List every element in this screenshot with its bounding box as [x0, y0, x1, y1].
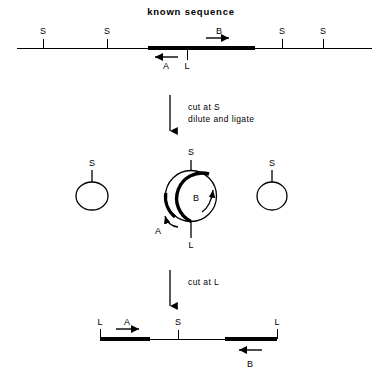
step-two-text: cut at L [188, 276, 219, 288]
primer-label-a-top: A [163, 62, 169, 71]
product-left-end-label-l: L [97, 318, 102, 327]
step-one-text: cut at S dilute and ligate [188, 101, 254, 125]
main-circle-primer-arrow-b [202, 190, 213, 212]
product-left-end-tick-l [100, 329, 101, 339]
known-sequence-bar [148, 46, 255, 50]
step-one-line-2: dilute and ligate [188, 113, 254, 125]
cut-site-label-s1: S [40, 27, 46, 36]
cut-site-tick-s4 [323, 39, 324, 49]
main-circle-primer-label-a: A [155, 227, 161, 236]
cut-site-tick-s3 [282, 39, 283, 49]
product-left-known-bar [100, 337, 150, 341]
product-middle-site-label-s: S [175, 318, 181, 327]
step-one-line-1: cut at S [188, 101, 254, 113]
left-circle-label-s: S [89, 159, 95, 168]
main-circle-primer-label-b: B [193, 194, 199, 203]
product-middle-site-tick-s [178, 330, 179, 339]
right-circle-outline [257, 182, 287, 210]
product-right-end-label-l: L [274, 318, 279, 327]
linker-label-l: L [184, 62, 189, 71]
main-circle-primer-arrow-a [165, 216, 178, 227]
figure-root: known sequence S S S S L B A cut at S di… [0, 0, 382, 379]
main-circle-label-s: S [188, 148, 194, 157]
cut-site-tick-s1 [43, 39, 44, 49]
vector-overlay [0, 0, 382, 379]
cut-site-label-s3: S [279, 27, 285, 36]
main-circle-outline [166, 171, 217, 222]
product-primer-label-a: A [124, 318, 130, 327]
figure-title: known sequence [147, 6, 235, 17]
cut-site-label-s4: S [320, 27, 326, 36]
right-circle-label-s: S [269, 159, 275, 168]
main-circle-label-l: L [188, 241, 193, 250]
product-primer-label-b: B [247, 360, 253, 369]
linker-tick-l [187, 49, 188, 60]
main-circle-known-arc-left [165, 193, 175, 217]
product-right-end-tick-l [277, 329, 278, 339]
cut-site-tick-s2 [107, 39, 108, 49]
cut-site-label-s2: S [104, 27, 110, 36]
left-circle-outline [76, 182, 108, 210]
step-two-line-1: cut at L [188, 276, 219, 288]
product-right-known-bar [225, 337, 277, 341]
primer-label-b-top: B [216, 27, 222, 36]
